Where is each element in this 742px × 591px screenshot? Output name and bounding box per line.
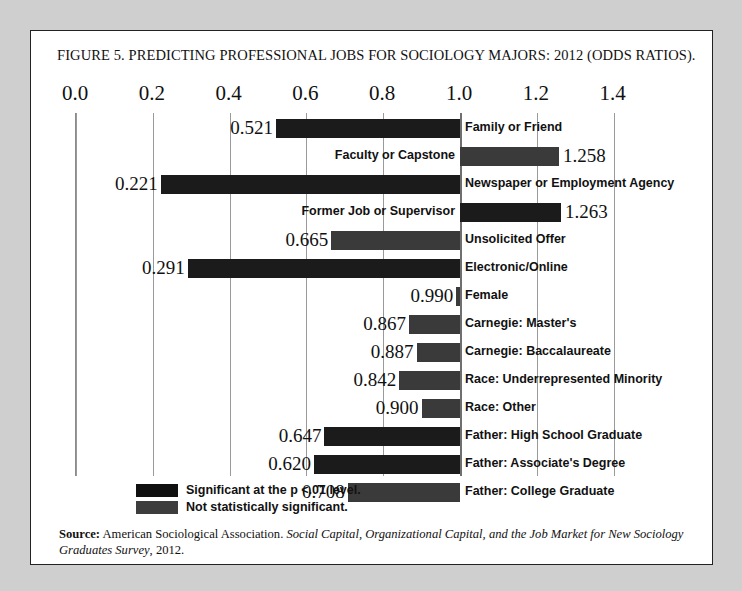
bar-category-label: Family or Friend: [460, 118, 562, 137]
figure-title: FIGURE 5. PREDICTING PROFESSIONAL JOBS F…: [57, 47, 697, 64]
figure-title-text: FIGURE 5. PREDICTING PROFESSIONAL JOBS F…: [57, 47, 696, 63]
chart-row: 0.842Race: Underrepresented Minority: [76, 367, 715, 395]
legend-item: Significant at the p <.01 level.: [136, 483, 361, 497]
bar: [460, 147, 559, 166]
chart-legend: Significant at the p <.01 level.Not stat…: [136, 483, 361, 517]
bar-value-label: 0.900: [376, 396, 422, 420]
bar-value-label: 0.665: [286, 228, 332, 252]
legend-swatch-sig: [136, 484, 178, 497]
chart-row: 0.900Race: Other: [76, 395, 715, 423]
legend-label: Not statistically significant.: [186, 500, 348, 514]
x-tick-label-0.2: 0.2: [139, 81, 165, 106]
bar-value-label: 0.647: [279, 424, 325, 448]
bar-category-label: Female: [460, 286, 508, 305]
x-tick-label-0.4: 0.4: [215, 81, 241, 106]
x-axis-tick-labels: 0.00.20.40.60.81.01.21.4: [31, 81, 714, 111]
bar-category-label: Carnegie: Master's: [460, 314, 576, 333]
chart-row: 0.665Unsolicited Offer: [76, 227, 715, 255]
bar: [417, 343, 460, 362]
legend-item: Not statistically significant.: [136, 500, 361, 514]
figure-frame: FIGURE 5. PREDICTING PROFESSIONAL JOBS F…: [30, 30, 713, 565]
chart-row: 0.221Newspaper or Employment Agency: [76, 171, 715, 199]
chart-row: 0.620Father: Associate's Degree: [76, 451, 715, 479]
plot-area: 0.521Family or Friend1.258Faculty or Cap…: [75, 113, 715, 476]
chart-row: 0.647Father: High School Graduate: [76, 423, 715, 451]
bar: [331, 231, 460, 250]
bar-value-label: 1.258: [559, 144, 606, 168]
bar-category-label: Faculty or Capstone: [335, 146, 460, 165]
x-tick-label-0.6: 0.6: [292, 81, 318, 106]
bar: [460, 203, 561, 222]
bar-value-label: 0.291: [142, 256, 188, 280]
bar-value-label: 0.887: [371, 340, 417, 364]
source-prefix: Source:: [59, 527, 100, 541]
bar: [422, 399, 460, 418]
bar: [409, 315, 460, 334]
bar-category-label: Father: Associate's Degree: [460, 454, 625, 473]
bar: [161, 175, 460, 194]
legend-swatch-nonsig: [136, 501, 178, 514]
bar-category-label: Father: College Graduate: [460, 482, 614, 501]
bar-value-label: 1.263: [561, 200, 608, 224]
x-tick-label-1.0: 1.0: [446, 81, 472, 106]
bar: [188, 259, 460, 278]
x-tick-label-1.4: 1.4: [599, 81, 625, 106]
x-tick-label-0.8: 0.8: [369, 81, 395, 106]
bar-category-label: Unsolicited Offer: [460, 230, 566, 249]
bar-category-label: Newspaper or Employment Agency: [460, 174, 674, 193]
bar: [314, 455, 460, 474]
x-tick-label-1.2: 1.2: [523, 81, 549, 106]
bar: [324, 427, 460, 446]
legend-label: Significant at the p <.01 level.: [186, 483, 361, 497]
bar-value-label: 0.620: [268, 452, 314, 476]
source-org: American Sociological Association.: [100, 527, 286, 541]
chart-row: 0.291Electronic/Online: [76, 255, 715, 283]
bar: [276, 119, 460, 138]
x-tick-label-0.0: 0.0: [62, 81, 88, 106]
chart-row: 0.887Carnegie: Baccalaureate: [76, 339, 715, 367]
bar-value-label: 0.221: [115, 172, 161, 196]
source-note: Source: American Sociological Associatio…: [59, 526, 695, 558]
source-suffix: , 2012.: [150, 543, 185, 557]
bar-category-label: Former Job or Supervisor: [301, 202, 460, 221]
bar-value-label: 0.867: [363, 312, 409, 336]
bar-category-label: Electronic/Online: [460, 258, 568, 277]
chart-row: 0.867Carnegie: Master's: [76, 311, 715, 339]
page-background: FIGURE 5. PREDICTING PROFESSIONAL JOBS F…: [0, 0, 742, 591]
bar-category-label: Race: Other: [460, 398, 536, 417]
chart-row: 0.521Family or Friend: [76, 115, 715, 143]
bar-category-label: Father: High School Graduate: [460, 426, 642, 445]
chart-row: 1.258Faculty or Capstone: [76, 143, 715, 171]
bar-value-label: 0.842: [354, 368, 400, 392]
bar-value-label: 0.990: [410, 284, 456, 308]
chart-row: 1.263Former Job or Supervisor: [76, 199, 715, 227]
bar-value-label: 0.521: [230, 116, 276, 140]
bar: [348, 483, 460, 502]
chart-row: 0.990Female: [76, 283, 715, 311]
bar: [399, 371, 460, 390]
bar-category-label: Race: Underrepresented Minority: [460, 370, 662, 389]
bar-category-label: Carnegie: Baccalaureate: [460, 342, 611, 361]
